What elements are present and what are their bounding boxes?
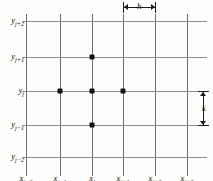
grid-hline-y-j-plus-2 <box>22 21 207 22</box>
grid-hline-y-j-minus-1 <box>22 125 207 126</box>
x-axis-tick-label: xi+2 <box>149 173 162 181</box>
y-axis-tick-y-j-plus-2: yj+2 <box>0 16 24 26</box>
y-axis-tick-label: yj+1 <box>11 52 24 63</box>
x-axis-tick-x-i: xi <box>75 167 109 178</box>
grid-node-bottom <box>90 123 95 128</box>
grid-vline-x-i-minus-2 <box>26 14 27 176</box>
grid-vline-x-i-plus-2 <box>155 14 156 176</box>
x-axis-tick-label: xi−2 <box>20 173 33 181</box>
grid-node-center <box>90 89 95 94</box>
k-measure-cap-bottom <box>198 125 209 126</box>
y-axis-tick-label: yj+2 <box>11 16 24 27</box>
h-measure-label: h <box>137 2 141 11</box>
grid-hline-y-j-plus-1 <box>22 57 207 58</box>
h-measure-cap-right <box>155 2 156 13</box>
y-axis-tick-label: yj <box>18 86 24 97</box>
grid-vline-x-i-minus-1 <box>60 14 61 176</box>
grid-node-top <box>90 55 95 60</box>
x-axis-tick-label: xi+3 <box>181 173 194 181</box>
x-axis-tick-label: xi <box>89 173 95 181</box>
x-axis-tick-x-i-minus-2: xi−2 <box>9 167 43 178</box>
y-axis-tick-label: yj−2 <box>11 152 24 163</box>
y-axis-tick-y-j: yj <box>0 86 24 96</box>
k-measure-label: k <box>202 104 206 113</box>
y-axis-tick-y-j-minus-2: yj−2 <box>0 152 24 162</box>
grid-vline-x-i <box>92 14 93 176</box>
x-axis-tick-x-i-minus-1: xi−1 <box>43 167 77 178</box>
finite-difference-grid-figure: yj+2 yj+1 yj yj−1 yj−2 xi−2 xi−1 xi xi+1… <box>0 0 213 181</box>
grid-vline-x-i-plus-3 <box>187 14 188 176</box>
x-axis-tick-label: xi−1 <box>54 173 67 181</box>
x-axis-tick-x-i-plus-1: xi+1 <box>106 167 140 178</box>
grid-node-right <box>121 89 126 94</box>
y-axis-tick-label: yj−1 <box>11 120 24 131</box>
x-axis-tick-x-i-plus-3: xi+3 <box>170 167 204 178</box>
x-axis-tick-label: xi+1 <box>117 173 130 181</box>
y-axis-tick-y-j-minus-1: yj−1 <box>0 120 24 130</box>
grid-hline-y-j-minus-2 <box>22 157 207 158</box>
x-axis-tick-x-i-plus-2: xi+2 <box>138 167 172 178</box>
grid-vline-x-i-plus-1 <box>123 14 124 176</box>
y-axis-tick-y-j-plus-1: yj+1 <box>0 52 24 62</box>
grid-hline-y-j <box>22 91 207 92</box>
grid-node-left <box>58 89 63 94</box>
